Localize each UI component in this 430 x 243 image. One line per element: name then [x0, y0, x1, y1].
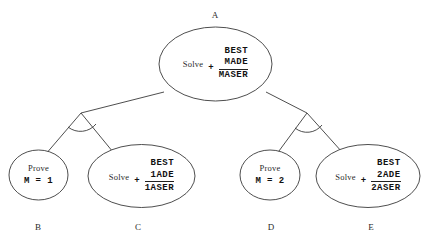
edge-left-junction-to-c [81, 113, 113, 152]
node-b-ellipse[interactable] [9, 150, 68, 200]
node-label-d: D [261, 222, 281, 232]
edge-right-junction-to-d [276, 113, 307, 155]
node-label-e: E [361, 222, 381, 232]
and-arc-left-icon [68, 124, 96, 131]
node-a-ellipse[interactable] [159, 27, 272, 101]
node-c-ellipse[interactable] [88, 145, 195, 208]
edge-a-to-right-junction [266, 92, 307, 113]
node-label-b: B [28, 222, 48, 232]
node-label-c: C [128, 222, 148, 232]
and-arc-right-icon [295, 125, 322, 132]
node-d-ellipse[interactable] [240, 150, 300, 200]
and-or-tree-diagram: Solve + BEST MADE MASER Prove M = 1 Solv… [0, 0, 430, 243]
node-e-ellipse[interactable] [316, 145, 420, 208]
node-label-a: A [205, 10, 225, 20]
tree-graphics-layer [0, 0, 430, 243]
edge-a-to-left-junction [81, 92, 164, 113]
edge-left-junction-to-b [45, 113, 81, 155]
edge-right-junction-to-e [307, 113, 342, 152]
